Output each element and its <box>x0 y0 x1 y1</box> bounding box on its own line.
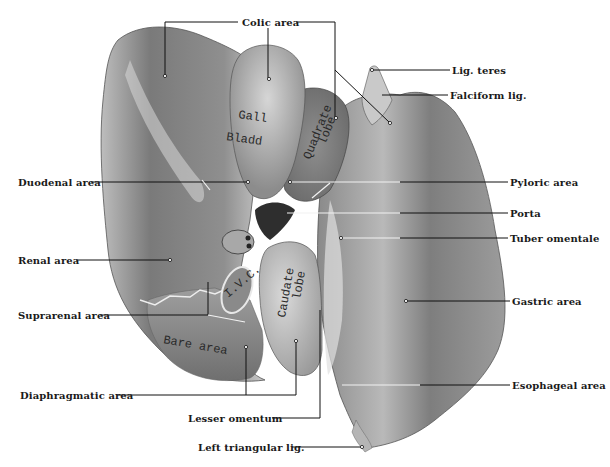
label-duodenal-area: Duodenal area <box>18 177 101 188</box>
liver-anatomy-figure: Gall Bladd Quadrate lobe Caudate lobe Ba… <box>0 0 610 467</box>
portal-vessel-stump <box>222 230 254 254</box>
label-suprarenal-area: Suprarenal area <box>18 310 110 321</box>
label-renal-area: Renal area <box>18 255 80 266</box>
vessel-lumen <box>247 244 252 249</box>
vessel-lumen <box>246 236 251 241</box>
liver-body <box>101 27 505 452</box>
label-gastric-area: Gastric area <box>512 296 582 307</box>
label-lig-teres: Lig. teres <box>452 65 506 76</box>
label-lesser-omentum: Lesser omentum <box>188 413 283 424</box>
label-tuber-omentale: Tuber omentale <box>510 233 599 244</box>
label-falciform-lig: Falciform lig. <box>450 90 527 101</box>
label-pyloric-area: Pyloric area <box>510 177 579 188</box>
label-esophageal-area: Esophageal area <box>512 380 606 391</box>
label-colic-area: Colic area <box>242 17 300 28</box>
label-left-triangular-lig: Left triangular lig. <box>198 442 305 453</box>
label-porta: Porta <box>510 208 541 219</box>
label-diaphragmatic-area: Diaphragmatic area <box>20 390 134 401</box>
porta-region <box>255 203 295 241</box>
